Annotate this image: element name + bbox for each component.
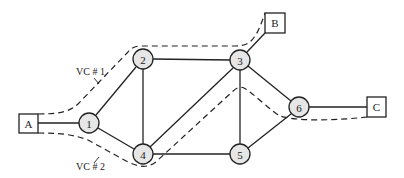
node-6: 6	[289, 97, 309, 117]
vc2-label: VC # 2	[76, 161, 105, 172]
host-C-label: C	[373, 101, 380, 113]
vc1-label: VC # 1	[76, 66, 105, 77]
node-5-label: 5	[237, 149, 243, 161]
host-B: B	[265, 13, 285, 33]
node-4: 4	[133, 144, 153, 164]
node-5: 5	[230, 144, 250, 164]
network-diagram: VC # 1 VC # 2 A B C 1 2 3 4 5 6	[0, 0, 404, 178]
node-3-label: 3	[237, 55, 243, 67]
host-A: A	[19, 114, 38, 133]
links	[38, 33, 367, 154]
link-3-B	[247, 33, 265, 52]
link-5-6	[248, 114, 291, 148]
host-B-label: B	[271, 17, 278, 29]
host-C: C	[367, 97, 386, 117]
link-1-4	[98, 128, 134, 149]
node-2: 2	[133, 49, 153, 69]
link-3-6	[248, 66, 291, 101]
link-2-3	[153, 59, 230, 60]
node-6-label: 6	[296, 102, 302, 114]
node-3: 3	[230, 50, 250, 70]
node-1-label: 1	[86, 118, 92, 130]
node-1: 1	[79, 113, 99, 133]
vc1-pointer	[94, 78, 99, 84]
host-A-label: A	[25, 118, 33, 130]
node-4-label: 4	[140, 149, 146, 161]
link-3-4	[150, 68, 233, 147]
node-2-label: 2	[140, 54, 146, 66]
